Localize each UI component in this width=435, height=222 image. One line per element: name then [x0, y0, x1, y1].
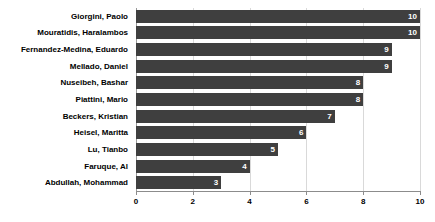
x-tick-label-6: 6: [304, 197, 308, 206]
category-label: Nuseibeh, Bashar: [0, 76, 132, 89]
x-tick-2: [193, 191, 194, 195]
bar: 9: [136, 60, 392, 73]
bar: 10: [136, 10, 420, 23]
x-tick-6: [306, 191, 307, 195]
category-label: Mouratidis, Haralambos: [0, 26, 132, 39]
category-label: Abdullah, Mohammad: [0, 176, 132, 189]
bar-chart: Giorgini, PaoloMouratidis, HaralambosFer…: [0, 0, 435, 222]
category-label: Faruque, Al: [0, 160, 132, 173]
bar: 6: [136, 126, 306, 139]
bar: 8: [136, 76, 363, 89]
bar-rows: 1010998876543: [136, 8, 420, 191]
bar-row: 9: [136, 43, 420, 56]
bar-value-label: 9: [384, 43, 388, 56]
bar-row: 8: [136, 76, 420, 89]
bar-value-label: 10: [408, 26, 417, 39]
bar-row: 4: [136, 160, 420, 173]
bar: 3: [136, 176, 221, 189]
category-label: Heisel, Maritta: [0, 126, 132, 139]
bar: 4: [136, 160, 250, 173]
bar-row: 7: [136, 110, 420, 123]
bar-row: 3: [136, 176, 420, 189]
bar-row: 10: [136, 26, 420, 39]
gridline-10: [420, 8, 421, 191]
category-label: Giorgini, Paolo: [0, 10, 132, 23]
bar: 5: [136, 143, 278, 156]
category-axis-labels: Giorgini, PaoloMouratidis, HaralambosFer…: [0, 8, 132, 191]
bar-value-label: 3: [214, 176, 218, 189]
x-tick-10: [420, 191, 421, 195]
x-tick-0: [136, 191, 137, 195]
bar: 8: [136, 93, 363, 106]
x-tick-label-0: 0: [134, 197, 138, 206]
category-label: Lu, Tianbo: [0, 143, 132, 156]
x-tick-label-8: 8: [361, 197, 365, 206]
x-axis-line: [136, 191, 420, 192]
bar-value-label: 10: [408, 10, 417, 23]
category-label: Fernandez-Medina, Eduardo: [0, 43, 132, 56]
bar: 9: [136, 43, 392, 56]
category-label: Beckers, Kristian: [0, 110, 132, 123]
category-label: Mellado, Daniel: [0, 60, 132, 73]
bar: 7: [136, 110, 335, 123]
x-tick-4: [250, 191, 251, 195]
x-tick-label-2: 2: [191, 197, 195, 206]
bar-row: 6: [136, 126, 420, 139]
bar-value-label: 6: [299, 126, 303, 139]
x-tick-8: [363, 191, 364, 195]
bar-row: 5: [136, 143, 420, 156]
category-label: Piattini, Mario: [0, 93, 132, 106]
x-tick-label-4: 4: [247, 197, 251, 206]
bar-value-label: 5: [271, 143, 275, 156]
bar-row: 8: [136, 93, 420, 106]
bar-value-label: 7: [327, 110, 331, 123]
plot-area: 1010998876543: [136, 8, 420, 191]
bar-row: 10: [136, 10, 420, 23]
bar: 10: [136, 26, 420, 39]
bar-value-label: 8: [356, 93, 360, 106]
bar-row: 9: [136, 60, 420, 73]
bar-value-label: 4: [242, 160, 246, 173]
x-tick-label-10: 10: [416, 197, 425, 206]
bar-value-label: 8: [356, 76, 360, 89]
bar-value-label: 9: [384, 60, 388, 73]
